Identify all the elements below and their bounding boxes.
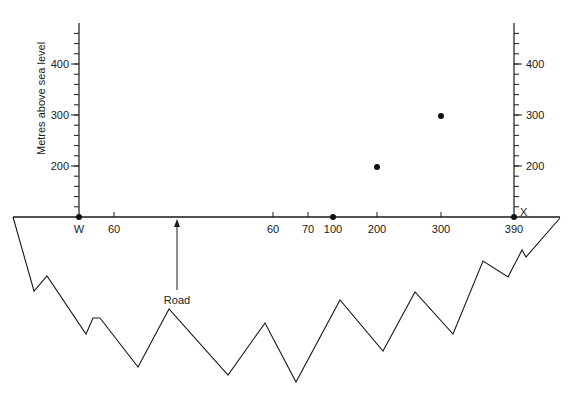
- x-axis-label: 390: [505, 223, 523, 235]
- right-tick-labels: 400300200: [514, 58, 544, 172]
- end-label-x: X: [520, 206, 528, 218]
- point-100: [330, 214, 336, 220]
- y-axis-title: Metres above sea level: [35, 42, 47, 155]
- x-axis-label: 300: [432, 223, 450, 235]
- x-axis-label: 100: [324, 223, 342, 235]
- road-label: Road: [164, 294, 190, 306]
- x-axis-label: 60: [267, 223, 279, 235]
- left-tick-label: 200: [51, 160, 69, 172]
- x-axis-labels: W606070100200300390: [74, 212, 523, 235]
- data-points: [76, 113, 517, 220]
- x-axis-label: 200: [368, 223, 386, 235]
- point-X: [511, 214, 517, 220]
- left-tick-labels: 400300200: [51, 58, 79, 172]
- road-arrow: [174, 219, 180, 290]
- x-axis-label: W: [74, 223, 85, 235]
- x-axis-label: 70: [302, 223, 314, 235]
- right-tick-label: 300: [526, 109, 544, 121]
- terrain-profile-line: [13, 217, 560, 382]
- point-W: [76, 214, 82, 220]
- left-tick-label: 400: [51, 58, 69, 70]
- right-y-axis: [514, 23, 519, 217]
- arrowhead-icon: [174, 219, 180, 227]
- point-300-height: [438, 113, 444, 119]
- left-tick-label: 300: [51, 109, 69, 121]
- right-tick-label: 200: [526, 160, 544, 172]
- left-y-axis: [74, 23, 79, 217]
- point-200-height: [374, 164, 380, 170]
- x-axis-label: 60: [108, 223, 120, 235]
- right-tick-label: 400: [526, 58, 544, 70]
- cross-section-diagram: Metres above sea level 400300200 4003002…: [0, 0, 573, 394]
